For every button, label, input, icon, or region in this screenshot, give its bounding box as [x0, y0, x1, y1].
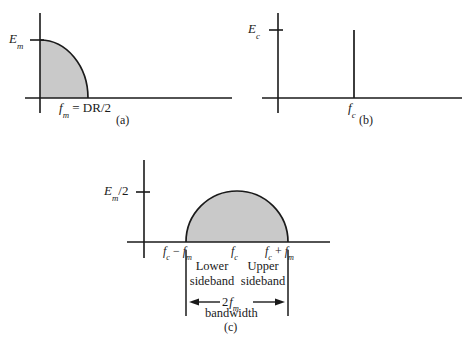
panel-a-caption: (a) — [116, 114, 129, 126]
panel-c-lower-sideband-line2: sideband — [190, 274, 234, 288]
figure-vector-layer — [0, 0, 471, 340]
panel-c-caption: (c) — [224, 321, 237, 333]
panel-c-x-tick-lower: fc − fm — [163, 245, 192, 261]
panel-b-caption: (b) — [359, 114, 373, 126]
panel-a-graph — [25, 13, 232, 113]
panel-c-upper-sideband-label: Upper sideband — [240, 259, 286, 289]
panel-c-graph — [127, 160, 330, 316]
panel-b-graph — [262, 13, 462, 113]
panel-b-y-axis-label: Ec — [248, 22, 260, 38]
panel-c-shaded-region — [186, 191, 288, 242]
panel-a-x-axis-label: fm = DR/2 — [59, 101, 111, 117]
panel-c-bandwidth-arrowhead-right — [275, 298, 285, 305]
panel-c-bandwidth-arrowhead-left — [189, 298, 199, 305]
panel-c-upper-sideband-line2: sideband — [241, 274, 285, 288]
figure-canvas: Em fm = DR/2 (a) Ec fc (b) Em/2 fc − fm … — [0, 0, 471, 340]
panel-c-y-axis-label: Em/2 — [104, 184, 128, 200]
panel-c-bandwidth-label: bandwidth — [205, 307, 258, 320]
panel-c-lower-sideband-label: Lower sideband — [189, 259, 235, 289]
panel-c-lower-sideband-line1: Lower — [196, 259, 229, 273]
panel-c-upper-sideband-line1: Upper — [247, 259, 278, 273]
panel-b-x-axis-label: fc — [348, 101, 356, 117]
panel-a-y-axis-label: Em — [9, 32, 23, 48]
